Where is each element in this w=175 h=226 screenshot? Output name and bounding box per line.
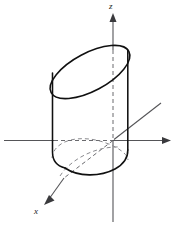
cylinder-hidden-edges bbox=[52, 139, 128, 176]
y-axis-arrowhead bbox=[162, 137, 171, 144]
cylinder-axes-diagram bbox=[0, 0, 175, 226]
figure-canvas: z x bbox=[0, 0, 175, 226]
cylinder-solid-edges bbox=[42, 35, 138, 175]
bottom-ellipse-back-arc bbox=[52, 139, 128, 160]
x-axis-arrowhead bbox=[44, 195, 55, 205]
x-axis-label: x bbox=[34, 207, 38, 216]
z-axis-group bbox=[110, 13, 117, 222]
cylinder-left-wall bbox=[53, 73, 66, 168]
z-axis-label: z bbox=[109, 2, 113, 11]
x-axis-lower-segment bbox=[49, 178, 64, 199]
x-axis-upper-segment bbox=[114, 103, 161, 140]
cylinder-top-ellipse bbox=[42, 35, 138, 110]
y-axis-group bbox=[4, 137, 171, 144]
x-axis-group bbox=[44, 103, 161, 205]
z-axis-arrowhead bbox=[110, 13, 117, 22]
